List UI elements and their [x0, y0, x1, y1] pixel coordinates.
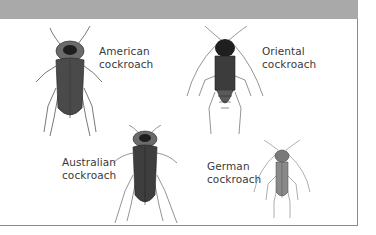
- header-band: [0, 0, 358, 19]
- australian-label-line2: cockroach: [62, 169, 116, 182]
- american-cockroach-illustration: [30, 26, 110, 140]
- oriental-cockroach-illustration: [185, 26, 265, 140]
- american-label-line2: cockroach: [99, 58, 153, 71]
- oriental-label-line2: cockroach: [262, 58, 316, 71]
- american-label-line1: American: [99, 45, 153, 58]
- german-label: German cockroach: [207, 160, 261, 186]
- german-label-line1: German: [207, 160, 261, 173]
- oriental-label: Oriental cockroach: [262, 45, 316, 71]
- australian-label-line1: Australian: [62, 156, 116, 169]
- illustration-panel: American cockroach Oriental cockroach: [0, 0, 358, 226]
- american-label: American cockroach: [99, 45, 153, 71]
- oriental-label-line1: Oriental: [262, 45, 316, 58]
- german-label-line2: cockroach: [207, 173, 261, 186]
- australian-cockroach-illustration: [105, 125, 185, 225]
- australian-label: Australian cockroach: [62, 156, 116, 182]
